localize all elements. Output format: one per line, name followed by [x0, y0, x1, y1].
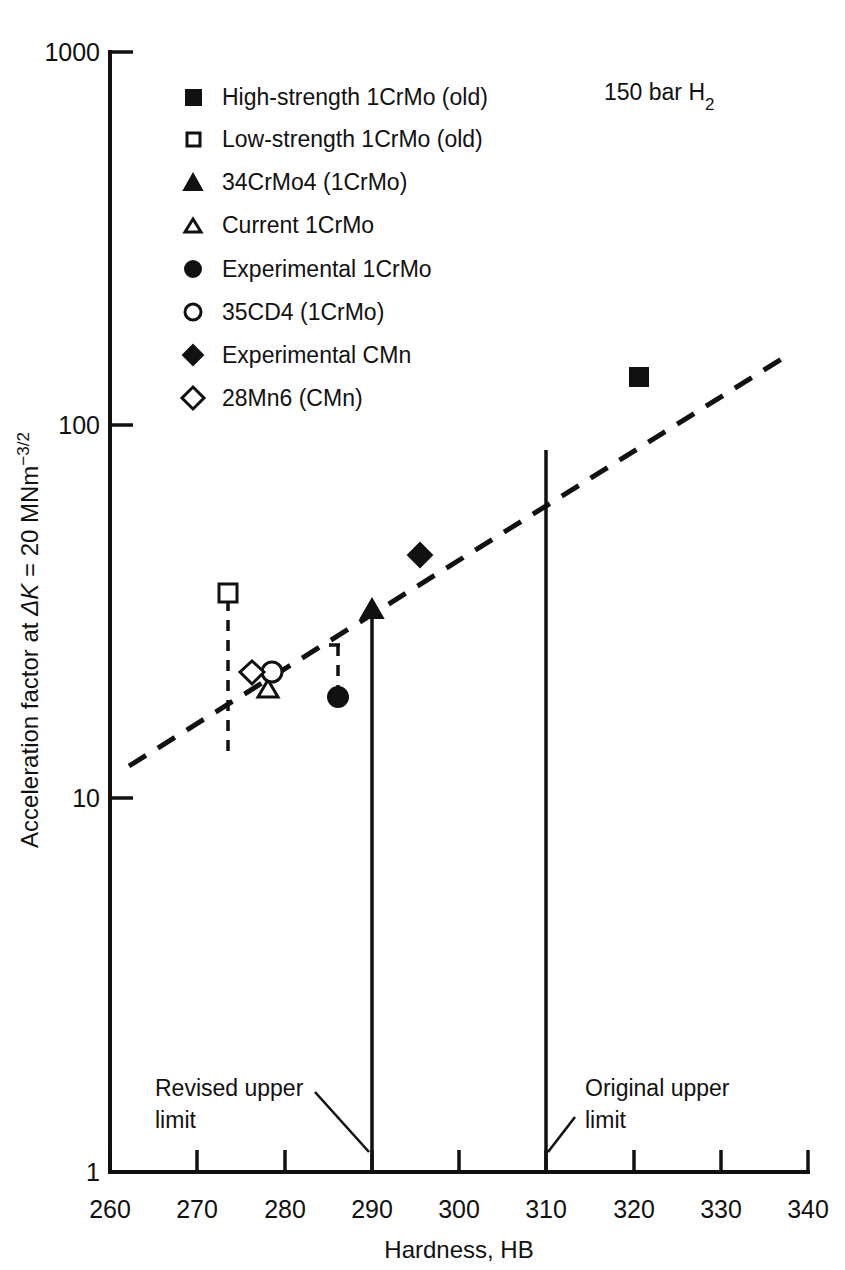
pressure-annotation-subscript: 2	[705, 95, 714, 114]
legend-label-current-1crmo: Current 1CrMo	[222, 212, 374, 238]
x-tick-label-260: 260	[89, 1195, 131, 1223]
legend-marker-open-diamond-icon	[182, 387, 204, 409]
revised-upper-limit-leader	[315, 1092, 369, 1152]
y-axis-title-symbol: ΔK	[16, 583, 43, 617]
svg-text:Acceleration factor at ΔK = 20: Acceleration factor at ΔK = 20 MNm−3/2	[14, 432, 44, 848]
original-upper-limit-leader	[548, 1117, 575, 1152]
x-axis-title: Hardness, HB	[384, 1236, 533, 1263]
legend-label-28mn6-cmn: 28Mn6 (CMn)	[222, 385, 363, 411]
legend-marker-filled-square-icon	[186, 90, 201, 105]
y-tick-label-10: 10	[72, 784, 100, 812]
x-tick-label-340: 340	[787, 1195, 829, 1223]
y-axis-title: Acceleration factor at ΔK = 20 MNm−3/2	[14, 432, 44, 848]
x-tick-labels: 260 270 280 290 300 310 320 330 340	[89, 1195, 829, 1223]
y-tick-labels: 1000 100 10 1	[44, 38, 100, 1186]
datapoint-high-strength-1crmo-old	[630, 368, 648, 386]
x-tick-label-280: 280	[264, 1195, 306, 1223]
original-upper-limit-annotation: Original upper limit	[548, 1075, 730, 1152]
chart-figure: 1000 100 10 1 260 270 280 290 300 310 32…	[0, 0, 845, 1270]
y-tick-label-100: 100	[58, 411, 100, 439]
pressure-annotation-text: 150 bar H	[604, 79, 705, 105]
legend-label-experimental-cmn: Experimental CMn	[222, 342, 411, 368]
legend-marker-open-square-icon	[187, 133, 200, 146]
pressure-annotation: 150 bar H2	[604, 79, 714, 114]
legend-label-high-strength-1crmo-old: High-strength 1CrMo (old)	[222, 84, 488, 110]
legend-marker-open-circle-icon	[185, 304, 201, 320]
legend-marker-open-triangle-icon	[185, 219, 201, 232]
legend-marker-filled-triangle-icon	[184, 174, 202, 190]
x-tick-label-310: 310	[525, 1195, 567, 1223]
legend-label-experimental-1crmo: Experimental 1CrMo	[222, 256, 432, 282]
legend-marker-filled-diamond-icon	[183, 345, 203, 365]
y-tick-label-1: 1	[86, 1158, 100, 1186]
axis-frame	[110, 52, 808, 1172]
y-tick-label-1000: 1000	[44, 38, 100, 66]
original-upper-limit-line2: limit	[585, 1107, 626, 1133]
datapoint-28mn6-cmn	[240, 661, 264, 684]
revised-upper-limit-line1: Revised upper	[155, 1075, 304, 1101]
datapoint-34crmo4-1crmo	[361, 599, 383, 618]
x-tick-label-330: 330	[700, 1195, 742, 1223]
axis-lines	[110, 52, 808, 1172]
legend-marker-filled-circle-icon	[185, 261, 201, 277]
legend-label-34crmo4-1crmo: 34CrMo4 (1CrMo)	[222, 169, 407, 195]
datapoint-experimental-cmn	[408, 543, 432, 567]
legend-label-low-strength-1crmo-old: Low-strength 1CrMo (old)	[222, 126, 483, 152]
datapoint-low-strength-1crmo-old	[219, 584, 237, 602]
x-tick-label-300: 300	[438, 1195, 480, 1223]
y-axis-title-exponent: −3/2	[14, 432, 33, 466]
datapoint-experimental-1crmo	[328, 687, 348, 707]
legend: High-strength 1CrMo (old) Low-strength 1…	[182, 84, 488, 411]
legend-label-35cd4-1crmo: 35CD4 (1CrMo)	[222, 299, 384, 325]
original-upper-limit-line1: Original upper	[585, 1075, 730, 1101]
y-axis-title-mid: = 20 MNm	[16, 466, 43, 584]
chart-svg: 1000 100 10 1 260 270 280 290 300 310 32…	[0, 0, 845, 1270]
revised-upper-limit-line2: limit	[155, 1107, 196, 1133]
x-tick-label-270: 270	[176, 1195, 218, 1223]
y-axis-title-prefix: Acceleration factor at	[16, 616, 43, 848]
x-tick-label-290: 290	[351, 1195, 393, 1223]
revised-upper-limit-annotation: Revised upper limit	[155, 1075, 369, 1152]
x-tick-label-320: 320	[613, 1195, 655, 1223]
